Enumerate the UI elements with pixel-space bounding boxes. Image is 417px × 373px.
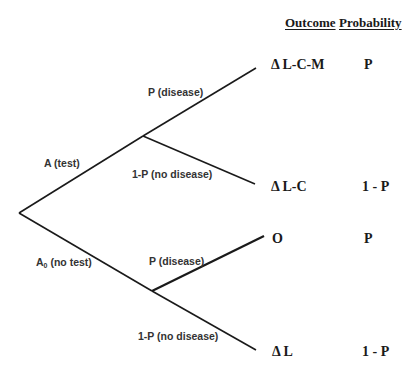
decision-label-no-test-main: A <box>36 256 44 268</box>
probability-2: 1 - P <box>362 180 389 194</box>
branch-no-test <box>19 213 152 291</box>
decision-label-no-test: A0 (no test) <box>36 257 92 269</box>
probability-4: 1 - P <box>362 345 389 359</box>
decision-tree-lines <box>0 0 417 373</box>
decision-tree-diagram: Outcome Probability A (test) A0 (no test… <box>0 0 417 373</box>
probability-header: Probability <box>339 16 402 29</box>
decision-label-test: A (test) <box>44 158 80 169</box>
probability-3: P <box>364 232 373 246</box>
branch-test-disease <box>143 68 256 136</box>
outcome-header: Outcome <box>285 16 336 29</box>
probability-1: P <box>364 58 373 72</box>
outcome-2: Δ L-C <box>271 180 307 194</box>
outcome-4: Δ L <box>272 345 293 359</box>
branch-label-test-no-disease: 1-P (no disease) <box>132 169 212 180</box>
branch-test <box>19 136 143 213</box>
decision-label-no-test-rest: (no test) <box>48 256 92 268</box>
branch-label-notest-disease: P (disease) <box>149 256 204 267</box>
outcome-1: Δ L-C-M <box>271 58 325 72</box>
outcome-3: O <box>272 232 283 246</box>
branch-label-test-disease: P (disease) <box>148 87 203 98</box>
branch-label-notest-no-disease: 1-P (no disease) <box>138 331 218 342</box>
